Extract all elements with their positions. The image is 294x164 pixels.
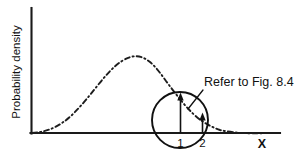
x-tick-label-2: 2 xyxy=(199,137,205,149)
ordinate-arrow-at-1 xyxy=(177,93,183,134)
ordinate-arrows-group xyxy=(177,93,205,134)
axes-group xyxy=(31,8,281,134)
x-axis-label: X xyxy=(258,137,267,151)
probability-density-chart: 1 2 X Refer to Fig. 8.4 Probability dens… xyxy=(0,0,294,164)
density-curve-group xyxy=(32,56,262,133)
density-curve xyxy=(32,56,262,133)
ordinate-arrow-at-1-head xyxy=(177,93,183,101)
ordinate-arrow-at-2-head xyxy=(199,113,205,121)
annotation-text: Refer to Fig. 8.4 xyxy=(204,75,294,89)
figure-root: 1 2 X Refer to Fig. 8.4 Probability dens… xyxy=(0,0,294,164)
annotation-group xyxy=(188,90,203,109)
x-tick-label-1: 1 xyxy=(177,137,183,149)
y-axis-label: Probability density xyxy=(10,25,22,119)
annotation-leader-line xyxy=(188,90,203,109)
